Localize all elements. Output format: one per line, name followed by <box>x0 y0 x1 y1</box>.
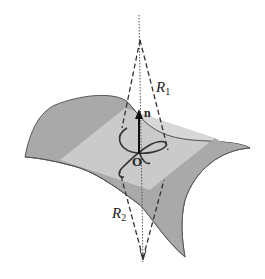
label-r1: R1 <box>155 79 170 97</box>
label-normal: n <box>144 106 151 120</box>
label-r2: R2 <box>111 205 126 223</box>
label-origin: O <box>132 154 142 169</box>
saddle-diagram: R1 n O R2 <box>0 0 265 279</box>
